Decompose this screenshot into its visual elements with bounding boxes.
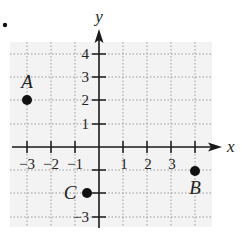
coordinate-plane: x −3 −2 −1 1 2 3 y 4 3 2 1 −3 A B — [0, 0, 242, 238]
y-axis-label: y — [93, 7, 103, 26]
y-tick-label: 3 — [82, 69, 90, 85]
y-tick-label: 4 — [82, 46, 90, 62]
point-b-label: B — [189, 177, 201, 198]
x-tick-label: −2 — [43, 156, 59, 172]
point-b: B — [189, 166, 201, 198]
y-tick-label: 1 — [82, 116, 90, 132]
x-tick-label: 2 — [144, 156, 152, 172]
x-axis-label: x — [226, 137, 235, 156]
x-tick-label: 1 — [120, 156, 128, 172]
point-c-label: C — [64, 182, 77, 203]
grid-background — [10, 42, 212, 227]
x-tick-label: −1 — [67, 156, 83, 172]
x-tick-label: 3 — [168, 156, 176, 172]
y-tick-label: −3 — [73, 209, 89, 225]
problem-number-marker — [3, 23, 7, 27]
x-tick-label: −3 — [19, 156, 35, 172]
y-tick-label: 2 — [82, 92, 90, 108]
point-a-label: A — [19, 71, 33, 92]
